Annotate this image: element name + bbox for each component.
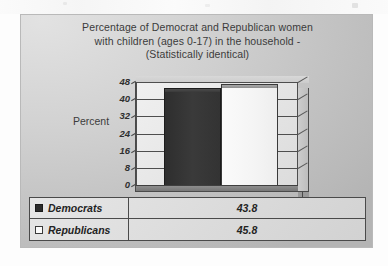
y-tick-label-16: 16 — [104, 145, 130, 156]
value-republicans: 45.8 — [237, 224, 257, 236]
y-tick-label-48: 48 — [104, 76, 130, 87]
bar-republicans-top-face — [221, 84, 278, 88]
data-table: Democrats 43.8 Republicans 45.8 — [29, 197, 366, 241]
legend-swatch-filled-icon — [35, 204, 43, 212]
y-tick-label-40: 40 — [104, 93, 130, 104]
scan-speck — [352, 3, 358, 8]
bar-democrats-top-face — [164, 88, 221, 92]
bar-democrats[interactable] — [164, 91, 221, 186]
legend-swatch-open-icon — [35, 226, 43, 234]
table-row[interactable]: Republicans 45.8 — [30, 219, 365, 240]
series-label-republicans: Republicans — [48, 224, 110, 236]
table-row-key-democrats: Democrats — [30, 198, 129, 218]
chart-page: Percentage of Democrat and Republican wo… — [0, 0, 388, 266]
plot-right-depth-face — [298, 88, 309, 192]
scan-artifact-band — [0, 0, 388, 14]
table-cell-value-republicans: 45.8 — [129, 219, 365, 240]
table-row-key-republicans: Republicans — [30, 219, 129, 240]
scan-speck — [205, 4, 210, 7]
series-label-democrats: Democrats — [48, 202, 102, 214]
y-tick-label-8: 8 — [104, 162, 130, 173]
bar-republicans[interactable] — [221, 87, 278, 186]
chart-figure: Percentage of Democrat and Republican wo… — [20, 14, 373, 248]
y-tick-label-24: 24 — [104, 128, 130, 139]
y-tick-label-0: 0 — [104, 179, 130, 190]
value-democrats: 43.8 — [237, 202, 257, 214]
scan-speck — [63, 2, 67, 5]
gridline — [136, 82, 298, 83]
table-row[interactable]: Democrats 43.8 — [30, 198, 365, 219]
plot-floor-edge — [136, 191, 309, 192]
y-tick-label-32: 32 — [104, 110, 130, 121]
table-cell-value-democrats: 43.8 — [129, 198, 365, 218]
